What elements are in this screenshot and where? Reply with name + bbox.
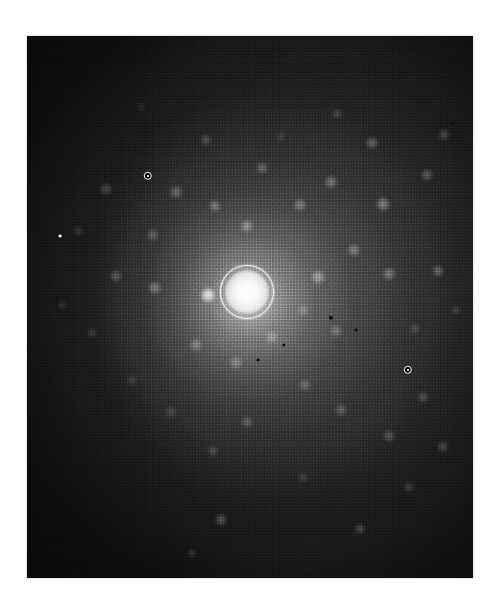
diffraction-spot — [383, 268, 396, 281]
diffraction-spot — [438, 442, 449, 453]
diffraction-spot — [330, 325, 342, 337]
screenshot-root — [0, 0, 497, 603]
diffraction-spot — [58, 301, 67, 310]
diffraction-spot — [201, 135, 212, 146]
diffraction-spot — [241, 220, 254, 233]
emulsion-speck — [257, 359, 260, 362]
diffraction-spot — [311, 270, 325, 284]
diffraction-spot — [266, 331, 279, 344]
diffraction-spot — [325, 176, 338, 189]
diffraction-spot — [335, 404, 347, 416]
diffraction-spot — [241, 416, 253, 428]
diffraction-spot — [277, 133, 286, 142]
diffraction-spot — [439, 130, 450, 141]
diffraction-spot — [110, 270, 122, 282]
diffraction-spot — [376, 197, 390, 211]
marker-lower-right-icon — [404, 366, 412, 374]
diffraction-spot — [149, 282, 162, 295]
diffraction-spot — [190, 339, 203, 352]
diffraction-spot — [147, 229, 159, 241]
diffraction-spot — [127, 375, 137, 385]
diffraction-spot — [87, 328, 97, 338]
emulsion-speck — [329, 316, 333, 320]
diffraction-plate — [27, 36, 473, 578]
diffraction-spot — [452, 306, 461, 315]
diffraction-spot — [418, 392, 429, 403]
diffraction-spot — [410, 324, 420, 334]
diffraction-spot — [299, 379, 311, 391]
diffraction-spot — [100, 183, 112, 195]
diffraction-spot — [383, 430, 395, 442]
diffraction-spot — [366, 137, 378, 149]
diffraction-spot — [73, 226, 83, 236]
emulsion-speck — [355, 329, 358, 332]
diffraction-spot — [201, 288, 216, 303]
diffraction-spot — [209, 200, 221, 212]
diffraction-spot — [355, 524, 366, 535]
diffraction-spot — [432, 265, 444, 277]
diffraction-spot — [208, 446, 219, 457]
diffraction-spot — [256, 162, 268, 174]
diffraction-spot — [348, 244, 361, 257]
marker-upper-left-icon — [144, 172, 152, 180]
emulsion-speck — [282, 343, 285, 346]
diffraction-spot — [188, 549, 197, 558]
beam-stop-ring — [220, 265, 274, 319]
diffraction-spot — [298, 472, 308, 482]
diffraction-spot — [230, 357, 243, 370]
emulsion-speck — [59, 235, 62, 238]
diffraction-spot — [170, 186, 183, 199]
diffraction-spot — [298, 305, 309, 316]
diffraction-spot — [137, 103, 146, 112]
emulsion-speck — [451, 122, 454, 125]
diffraction-spot — [421, 169, 433, 181]
diffraction-spot — [294, 199, 307, 212]
diffraction-spot — [215, 514, 227, 526]
diffraction-spot — [404, 482, 414, 492]
diffraction-spot — [166, 407, 177, 418]
diffraction-spot — [332, 109, 342, 119]
